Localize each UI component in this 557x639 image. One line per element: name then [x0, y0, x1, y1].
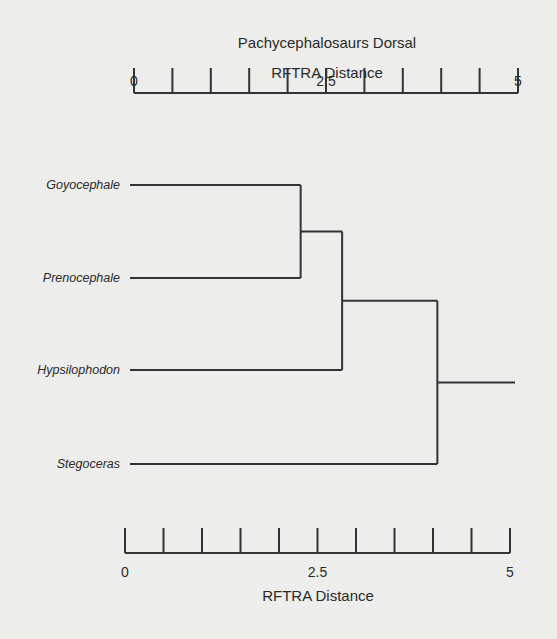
bottom-tick-label: 0: [121, 564, 129, 580]
bottom-tick-label: 5: [506, 564, 514, 580]
chart-title: Pachycephalosaurs Dorsal: [238, 34, 416, 51]
dendrogram-tree: [130, 185, 515, 464]
bottom-tick-label: 2.5: [308, 564, 328, 580]
bottom-axis: 02.55: [121, 528, 514, 580]
top-tick-label: 5: [514, 73, 522, 89]
top-axis: 02.55: [130, 68, 522, 93]
leaf-label: Goyocephale: [46, 178, 120, 192]
leaf-label: Stegoceras: [57, 457, 120, 471]
bottom-axis-label: RFTRA Distance: [262, 587, 374, 604]
leaf-labels: GoyocephalePrenocephaleHypsilophodonSteg…: [37, 178, 120, 471]
leaf-label: Prenocephale: [43, 271, 120, 285]
dendrogram-chart: Pachycephalosaurs Dorsal RFTRA Distance …: [0, 0, 557, 639]
top-tick-label: 0: [130, 73, 138, 89]
top-tick-label: 2.5: [316, 73, 336, 89]
leaf-label: Hypsilophodon: [37, 363, 120, 377]
